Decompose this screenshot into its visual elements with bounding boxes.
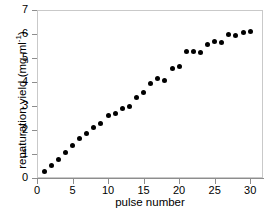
x-tick-label: 20 — [166, 185, 192, 196]
y-tick-mark — [32, 130, 37, 131]
data-point — [248, 29, 253, 34]
x-tick-label: 30 — [237, 185, 263, 196]
y-tick-label: 3 — [4, 100, 28, 111]
x-tick-label: 0 — [24, 185, 50, 196]
data-point — [63, 150, 68, 155]
y-tick-mark — [32, 154, 37, 155]
x-axis-spine — [37, 178, 264, 179]
data-point — [56, 157, 61, 162]
x-tick-label: 5 — [60, 185, 86, 196]
data-point — [170, 66, 175, 71]
data-point — [205, 42, 210, 47]
y-tick-label: 4 — [4, 76, 28, 87]
y-tick-mark — [32, 34, 37, 35]
x-axis-title: pulse number — [37, 196, 263, 208]
data-point — [113, 111, 118, 116]
data-point — [42, 169, 47, 174]
x-tick-label: 25 — [202, 185, 228, 196]
y-tick-label: 5 — [4, 52, 28, 63]
y-tick-label: 7 — [4, 4, 28, 15]
data-point — [226, 32, 231, 37]
data-point — [127, 104, 132, 109]
x-tick-label: 10 — [95, 185, 121, 196]
data-point — [70, 143, 75, 148]
data-point — [191, 49, 196, 54]
y-tick-label: 1 — [4, 148, 28, 159]
renaturation-yield-scatter-chart: renaturation yield (mg ml-1) 01234567 05… — [0, 0, 273, 216]
x-tick-label: 15 — [131, 185, 157, 196]
data-point — [241, 30, 246, 35]
data-point — [120, 106, 125, 111]
data-point — [106, 113, 111, 118]
data-point — [91, 125, 96, 130]
y-tick-label: 6 — [4, 28, 28, 39]
data-point — [177, 64, 182, 69]
y-tick-mark — [32, 58, 37, 59]
y-tick-mark — [32, 82, 37, 83]
data-point — [184, 49, 189, 54]
y-tick-label: 2 — [4, 124, 28, 135]
y-tick-mark — [32, 106, 37, 107]
y-tick-label: 0 — [4, 172, 28, 183]
data-point — [49, 163, 54, 168]
data-point — [212, 39, 217, 44]
y-tick-mark — [32, 10, 37, 11]
data-point — [198, 50, 203, 55]
